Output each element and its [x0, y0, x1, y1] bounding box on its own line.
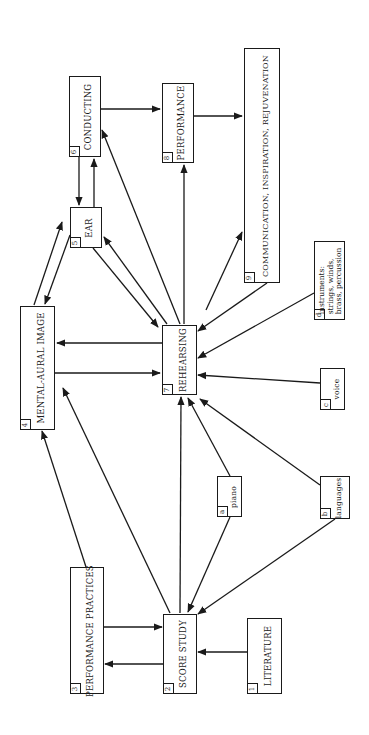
node-number-text: 7 — [163, 388, 173, 392]
node-number: 5 — [71, 237, 81, 247]
node-label-line: brass, percussion — [335, 247, 344, 314]
node-number: 3 — [71, 683, 81, 693]
node-number: 7 — [163, 384, 173, 394]
node-1: 1LITERATURE — [247, 618, 282, 694]
node-7: 7REHEARSING — [162, 325, 197, 395]
node-number-text: a — [218, 510, 228, 514]
flow-diagram: 1LITERATURE2SCORE STUDY3PERFORMANCE PRAC… — [0, 0, 369, 735]
node-2: 2SCORE STUDY — [163, 614, 197, 694]
arrow-5-to-4 — [45, 235, 70, 304]
arrow-7-to-5 — [104, 237, 167, 324]
node-number-text: 1 — [248, 687, 258, 691]
node-number-text: 6 — [70, 150, 80, 154]
node-number-text: b — [320, 512, 330, 516]
node-number: c — [321, 399, 331, 409]
node-number: 2 — [164, 683, 174, 693]
node-c: cvoice — [320, 368, 345, 410]
node-number: 8 — [163, 152, 173, 162]
node-number: 1 — [248, 683, 258, 693]
node-label: COMMUNICATION, INSPIRATION, REJUVENATION — [261, 54, 270, 276]
node-number: 9 — [245, 272, 255, 282]
node-9: 9COMMUNICATION, INSPIRATION, REJUVENATIO… — [244, 48, 280, 283]
arrow-2-to-7 — [180, 397, 181, 613]
node-number-text: 3 — [71, 687, 81, 691]
node-number-text: c — [320, 403, 330, 407]
node-label: PERFORMANCE — [176, 86, 186, 161]
node-number: 6 — [70, 146, 80, 156]
arrow-a-to-2 — [188, 517, 230, 612]
arrow-9-to-7 — [198, 283, 267, 331]
node-label: REHEARSING — [178, 328, 188, 392]
node-number-text: 4 — [21, 423, 31, 427]
node-number-text: 9 — [245, 276, 255, 280]
node-b: blanguages — [320, 476, 350, 519]
node-label: SCORE STUDY — [178, 620, 188, 688]
node-number-text: 8 — [163, 156, 173, 160]
node-label: voice — [331, 379, 340, 400]
node-label: languages — [334, 477, 343, 518]
node-8: 8PERFORMANCE — [162, 83, 194, 163]
node-3: 3PERFORMANCE PRACTICES — [70, 567, 104, 694]
arrow-d-to-7 — [198, 293, 314, 358]
arrow-3-to-4 — [42, 431, 86, 567]
arrow-c-to-7 — [198, 375, 320, 383]
arrow-7-to-9 — [206, 232, 242, 310]
node-number: 4 — [21, 419, 31, 429]
arrow-4-to-5 — [34, 222, 62, 305]
node-4: 4MENTAL-AURAL IMAGE — [20, 306, 55, 430]
node-number-text: 5 — [71, 241, 81, 245]
node-label: LITERATURE — [263, 626, 273, 686]
node-label: MENTAL-AURAL IMAGE — [36, 312, 46, 423]
node-label: PERFORMANCE PRACTICES — [85, 565, 95, 697]
arrow-b-to-7 — [200, 399, 320, 485]
node-d: dinstruments:strings, winds,brass, percu… — [314, 241, 345, 320]
node-label-line: instruments: — [318, 247, 327, 314]
node-number: a — [218, 506, 228, 516]
node-number-text: 2 — [164, 687, 174, 691]
arrow-b-to-2 — [198, 519, 335, 614]
node-a: apiano — [217, 476, 242, 517]
node-label: EAR — [84, 218, 94, 237]
node-6: 6CONDUCTING — [69, 76, 101, 157]
arrow-5-to-7 — [93, 248, 158, 327]
arrow-a-to-7 — [188, 398, 230, 476]
node-5: 5EAR — [70, 207, 102, 248]
node-label: CONDUCTING — [83, 83, 93, 150]
node-label: instruments:strings, winds,brass, percus… — [318, 247, 344, 314]
node-number: b — [321, 508, 331, 518]
node-label: piano — [228, 485, 237, 507]
